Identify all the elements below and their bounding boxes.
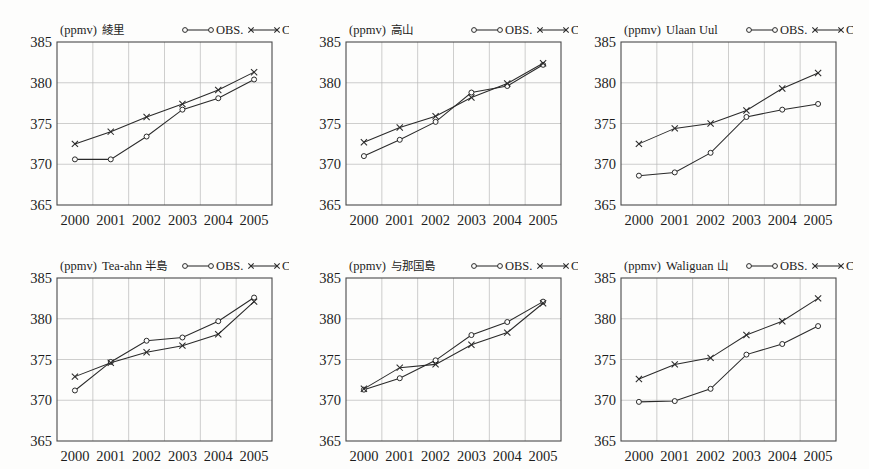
x-axis-tick-label: 2002: [421, 212, 450, 228]
panel-title: Ulaan Uul: [666, 23, 718, 37]
panel-title: 綾里: [102, 23, 124, 37]
y-axis-tick-label: 385: [594, 270, 616, 286]
x-axis-tick-label: 2000: [624, 448, 653, 464]
data-point-obs: [72, 388, 77, 393]
data-point-obs: [816, 101, 821, 106]
data-point-cal: [743, 107, 749, 113]
x-axis-tick-label: 2004: [493, 448, 523, 464]
data-point-cal: [468, 342, 474, 348]
data-point-obs: [180, 107, 185, 112]
y-axis-tick-label: 375: [30, 352, 52, 368]
chart-panel: 385380375370365200020012002200320042005(…: [0, 0, 289, 236]
y-axis-tick-label: 370: [594, 156, 616, 172]
chart-panel-inner: 385380375370365200020012002200320042005(…: [564, 236, 869, 469]
legend-obs-marker-icon: [183, 28, 188, 33]
panel-title: Waliguan 山: [666, 259, 728, 273]
y-axis-tick-label: 380: [30, 311, 52, 327]
data-point-cal: [743, 332, 749, 338]
y-axis-tick-label: 370: [319, 156, 341, 172]
data-point-obs: [180, 335, 185, 340]
data-point-obs: [144, 338, 149, 343]
y-axis-tick-label: 380: [319, 311, 341, 327]
data-point-obs: [361, 154, 366, 159]
x-axis-tick-label: 2003: [732, 448, 761, 464]
x-axis-tick-label: 2001: [385, 212, 414, 228]
chart-panel-inner: 385380375370365200020012002200320042005(…: [289, 236, 564, 469]
chart-panel-inner: 385380375370365200020012002200320042005(…: [564, 0, 869, 236]
x-axis-tick-label: 2004: [204, 212, 234, 228]
y-axis-tick-label: 380: [594, 311, 616, 327]
data-point-cal: [815, 295, 821, 301]
y-axis-tick-label: 375: [319, 116, 341, 132]
panel-title: Tea-ahn 半島: [102, 259, 167, 273]
y-axis-units-label: (ppmv): [624, 23, 661, 37]
data-point-obs: [744, 352, 749, 357]
legend-obs-marker-icon: [472, 28, 477, 33]
y-axis-tick-label: 370: [30, 156, 52, 172]
legend-obs-marker-icon: [209, 264, 214, 269]
legend-label-cal: CAL.: [846, 259, 853, 273]
data-point-obs: [780, 342, 785, 347]
data-point-cal: [72, 374, 78, 380]
legend-obs-marker-icon: [747, 264, 752, 269]
legend-obs-marker-icon: [498, 28, 503, 33]
legend-obs-marker-icon: [183, 264, 188, 269]
legend-label-obs: OBS.: [505, 23, 532, 37]
data-point-cal: [179, 101, 185, 107]
data-point-obs: [397, 376, 402, 381]
data-point-obs: [397, 137, 402, 142]
y-axis-tick-label: 365: [594, 197, 616, 213]
x-axis-tick-label: 2001: [96, 448, 125, 464]
y-axis-units-label: (ppmv): [60, 23, 97, 37]
chart-panel: 385380375370365200020012002200320042005(…: [564, 236, 869, 469]
y-axis-tick-label: 365: [319, 433, 341, 449]
chart-panel-inner: 385380375370365200020012002200320042005(…: [0, 0, 289, 236]
data-point-obs: [505, 320, 510, 325]
legend-label-cal: CAL.: [282, 23, 289, 37]
data-point-cal: [72, 141, 78, 147]
data-point-obs: [708, 150, 713, 155]
y-axis-tick-label: 370: [30, 392, 52, 408]
x-axis-tick-label: 2005: [804, 448, 833, 464]
chart-svg: 385380375370365200020012002200320042005(…: [0, 236, 289, 469]
data-point-obs: [433, 119, 438, 124]
data-point-obs: [780, 107, 785, 112]
x-axis-tick-label: 2004: [204, 448, 234, 464]
legend-label-cal: CAL.: [846, 23, 853, 37]
panel-title: 与那国島: [391, 259, 435, 273]
x-axis-tick-label: 2000: [349, 212, 378, 228]
y-axis-tick-label: 385: [30, 270, 52, 286]
y-axis-tick-label: 375: [594, 116, 616, 132]
data-point-obs: [672, 399, 677, 404]
data-point-cal: [251, 69, 257, 75]
y-axis-tick-label: 385: [594, 34, 616, 50]
data-point-cal: [636, 141, 642, 147]
data-point-obs: [72, 157, 77, 162]
y-axis-tick-label: 370: [319, 392, 341, 408]
legend-label-obs: OBS.: [216, 259, 243, 273]
y-axis-units-label: (ppmv): [60, 259, 97, 273]
x-axis-tick-label: 2003: [168, 212, 197, 228]
data-point-obs: [672, 170, 677, 175]
data-point-obs: [636, 173, 641, 178]
data-point-cal: [504, 330, 510, 336]
x-axis-tick-label: 2001: [96, 212, 125, 228]
y-axis-tick-label: 375: [319, 352, 341, 368]
data-point-obs: [744, 114, 749, 119]
data-point-cal: [636, 376, 642, 382]
y-axis-tick-label: 370: [594, 392, 616, 408]
x-axis-tick-label: 2005: [529, 448, 558, 464]
x-axis-tick-label: 2005: [804, 212, 833, 228]
legend-label-obs: OBS.: [780, 23, 807, 37]
y-axis-tick-label: 385: [30, 34, 52, 50]
data-point-obs: [252, 77, 257, 82]
data-point-obs: [469, 90, 474, 95]
x-axis-tick-label: 2001: [660, 448, 689, 464]
x-axis-tick-label: 2000: [624, 212, 653, 228]
x-axis-tick-label: 2001: [660, 212, 689, 228]
data-point-obs: [144, 134, 149, 139]
legend-obs-marker-icon: [773, 28, 778, 33]
y-axis-tick-label: 385: [319, 34, 341, 50]
chart-svg: 385380375370365200020012002200320042005(…: [289, 0, 578, 236]
data-point-obs: [636, 399, 641, 404]
